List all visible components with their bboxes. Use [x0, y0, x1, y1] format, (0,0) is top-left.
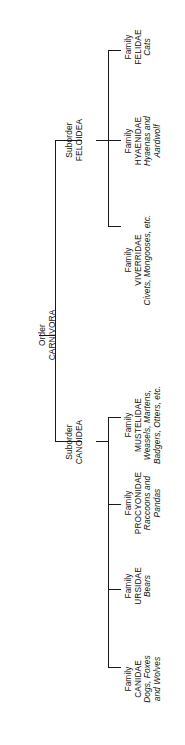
node-common2-procyonidae: Pandas [153, 453, 163, 553]
node-label-family-felidae: Family FELIDAE Cats [124, 2, 153, 92]
node-label-family-procyonidae: Family PROCYONIDAE Raccoons and Pandas [124, 453, 162, 553]
node-common2-hyaenidae: Aardwolf [153, 96, 163, 186]
root-spine-line [55, 140, 56, 441]
node-label-suborder-canoidea: Suborder CANOIDEA [65, 397, 85, 487]
node-common-viverridae: Civets, Mongooses, etc. [143, 190, 153, 330]
branch-canidae-line [108, 667, 121, 668]
branch-ursidae-line [108, 589, 121, 590]
node-label-suborder-feloidea: Suborder FELOIDEA [65, 95, 85, 185]
branch-viverridae-line [108, 226, 121, 227]
carnivora-taxonomy-diagram: Order CARNIVORA Suborder FELOIDEA Family… [0, 0, 185, 745]
node-common-felidae: Cats [143, 2, 153, 92]
branch-hyaenidae-line [108, 140, 121, 141]
node-name-feloidea: FELOIDEA [75, 95, 85, 185]
node-label-family-canidae: Family CANIDAE Dogs, Foxes and Wolves [124, 629, 162, 729]
node-label-family-viverridae: Family VIVERRIDAE Civets, Mongooses, etc… [124, 190, 153, 330]
branch-procyonidae-line [108, 504, 121, 505]
node-common-ursidae: Bears [143, 541, 153, 631]
feloidea-children-spine-line [108, 50, 109, 226]
node-name-carnivora: CARNIVORA [48, 290, 58, 380]
node-common2-canidae: and Wolves [153, 629, 163, 729]
node-label-family-ursidae: Family URSIDAE Bears [124, 541, 153, 631]
node-label-family-hyaenidae: Family HYAENIDAE Hyaenas and Aardwolf [124, 96, 162, 186]
node-name-canoidea: CANOIDEA [75, 397, 85, 487]
branch-mustelidae-line [108, 417, 121, 418]
branch-felidae-line [108, 50, 121, 51]
canoidea-children-spine-line [108, 417, 109, 667]
